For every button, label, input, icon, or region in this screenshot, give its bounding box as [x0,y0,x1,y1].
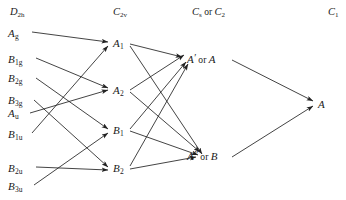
term-label-A2: A2 [113,85,124,96]
correlation-arrow [36,58,108,88]
term-label-B1g: B1g [8,54,23,65]
term-label-Ap: A′orA [187,54,216,66]
correlation-arrow [36,78,108,129]
correlation-arrow [30,90,108,113]
term-label-Ag: Ag [8,28,19,39]
term-label-A: A [318,99,325,110]
correlation-edges [30,32,313,185]
correlation-arrow [32,32,108,42]
term-label-B2: B2 [113,163,124,174]
edge-layer [0,0,346,200]
correlation-arrow [34,133,108,185]
column-header-cs: Cs or C2 [192,7,225,18]
term-label-Au: Au [8,108,19,119]
term-label-A1: A1 [113,38,124,49]
correlation-arrow [130,44,182,57]
correlation-arrow [130,64,188,166]
column-header-c1: C1 [328,7,339,18]
term-label-B2g: B2g [8,73,23,84]
correlation-diagram: D2hC2vCs or C2C1 AgB1gB2gB3gAuB1uB2uB3uA… [0,0,346,200]
correlation-arrow [34,100,108,167]
term-label-B2u: B2u [8,163,23,174]
correlation-arrow [232,106,313,157]
term-label-B1: B1 [113,125,124,136]
column-header-d2h: D2h [10,7,25,18]
term-label-B3g: B3g [8,95,23,106]
term-label-B3u: B3u [8,181,23,192]
correlation-arrow [32,46,108,133]
column-header-c2v: C2v [113,7,127,18]
correlation-arrow [232,60,313,101]
term-label-B1u: B1u [8,129,23,140]
correlation-arrow [36,167,108,170]
term-label-App: A″orB [187,151,218,163]
